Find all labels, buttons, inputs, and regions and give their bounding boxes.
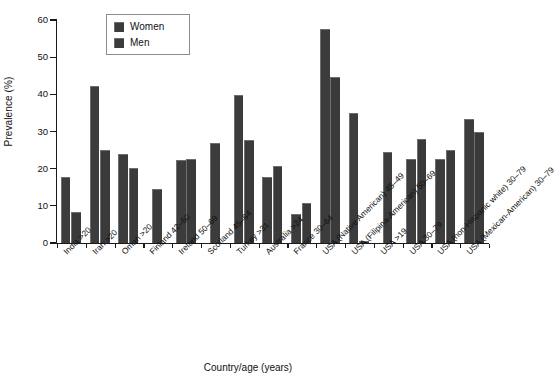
legend: Women Men bbox=[106, 14, 190, 55]
legend-label-men: Men bbox=[130, 38, 149, 48]
legend-label-women: Women bbox=[130, 22, 164, 32]
legend-item-men: Men bbox=[114, 35, 189, 51]
legend-swatch-men bbox=[114, 38, 124, 48]
x-axis-label-11: USA >19 bbox=[379, 226, 409, 256]
x-axis-title: Country/age (years) bbox=[0, 362, 496, 373]
x-axis-label-0: India >20 bbox=[62, 225, 93, 256]
legend-item-women: Women bbox=[114, 19, 189, 35]
legend-swatch-women bbox=[114, 22, 124, 32]
x-axis-label-1: Iran >20 bbox=[91, 228, 119, 256]
